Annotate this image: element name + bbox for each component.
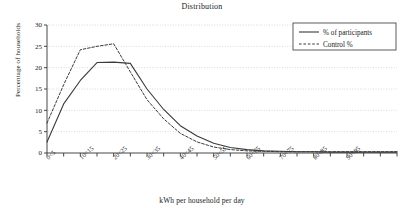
y-tick-label: 5 bbox=[39, 128, 43, 136]
y-tick-label: 25 bbox=[35, 43, 43, 51]
legend-label: % of participants bbox=[323, 29, 372, 37]
series-line-1 bbox=[47, 62, 397, 152]
x-tick-label: 0<5 bbox=[44, 149, 56, 161]
distribution-chart: Distribution Percentage of households 05… bbox=[0, 0, 404, 208]
legend-label: Control % bbox=[323, 41, 353, 49]
legend: % of participantsControl % bbox=[293, 23, 396, 50]
series-lines bbox=[47, 44, 397, 152]
y-tick-label: 0 bbox=[39, 149, 43, 157]
y-tick-label: 30 bbox=[35, 21, 43, 29]
series-line-2 bbox=[47, 44, 397, 152]
y-tick-label: 20 bbox=[35, 64, 43, 72]
y-tick-label: 15 bbox=[35, 85, 43, 93]
y-tick-label: 10 bbox=[35, 107, 43, 115]
x-axis-label: kWh per household per day bbox=[0, 196, 404, 205]
y-axis-ticks: 051015202530 bbox=[35, 21, 47, 157]
plot-area: 051015202530 0<510<1520<2530<3540<4550<5… bbox=[0, 0, 404, 208]
